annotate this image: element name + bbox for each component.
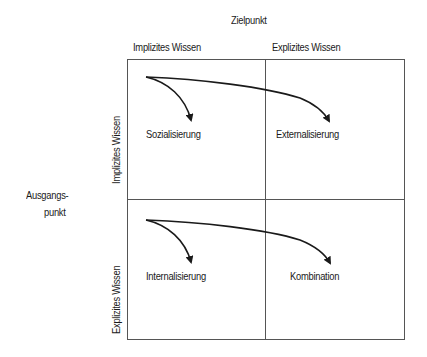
arrow-kombination <box>146 220 330 263</box>
column-header-explicit: Explizites Wissen <box>272 41 340 53</box>
matrix-grid <box>128 60 405 340</box>
quadrant-label-externalisierung: Externalisierung <box>276 128 339 140</box>
arrow-externalisierung <box>146 77 329 121</box>
arrow-sozialisierung <box>146 77 191 120</box>
row-header-implicit: Implizites Wissen <box>110 116 122 184</box>
quadrant-label-sozialisierung: Sozialisierung <box>146 128 201 140</box>
quadrant-label-internalisierung: Internalisierung <box>146 270 206 282</box>
source-axis-title-line1: Ausgangs- <box>26 189 68 201</box>
knowledge-matrix-graphic <box>0 0 427 357</box>
quadrant-label-kombination: Kombination <box>290 270 339 282</box>
column-header-implicit: Implizites Wissen <box>133 41 201 53</box>
row-header-explicit: Explizites Wissen <box>110 266 122 334</box>
arrow-internalisierung <box>146 220 191 262</box>
arrows-bottom <box>146 220 330 263</box>
arrows-top <box>146 77 329 121</box>
source-axis-title-line2: punkt <box>44 206 66 218</box>
target-axis-title: Zielpunkt <box>231 14 267 26</box>
